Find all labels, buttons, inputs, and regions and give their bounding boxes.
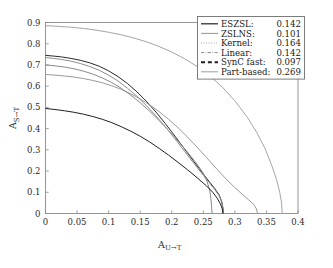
y-tick-label: 0.9 <box>27 18 41 28</box>
legend-value: 0.142 <box>276 48 301 58</box>
x-tick-label: 0.25 <box>194 217 213 227</box>
legend: ESZSL:0.142ZSLNS:0.101Kernel:0.164Linear… <box>198 17 305 80</box>
y-tick-label: 0.8 <box>27 39 41 49</box>
y-tick-label: 0.2 <box>27 166 41 176</box>
legend-value: 0.164 <box>276 38 301 48</box>
legend-label: Kernel: <box>221 38 253 48</box>
curve-zslns <box>46 58 224 214</box>
y-tick-label: 0 <box>35 209 40 219</box>
legend-value: 0.142 <box>276 19 301 29</box>
x-tick-label: 0 <box>43 217 48 227</box>
x-tick-label: 0.4 <box>291 217 305 227</box>
y-tick-label: 0.1 <box>27 187 41 197</box>
legend-value: 0.097 <box>276 57 301 67</box>
legend-label: Linear: <box>221 48 252 58</box>
x-tick-label: 0.35 <box>257 217 276 227</box>
curve-sync-fast <box>46 108 223 213</box>
curve-kernel <box>46 74 258 213</box>
legend-label: SynC fast: <box>221 57 266 67</box>
curve-eszsl <box>46 55 224 213</box>
chart-svg: 00.050.10.150.20.250.30.350.4AU→T00.10.2… <box>0 0 333 268</box>
y-tick-label: 0.6 <box>27 81 41 91</box>
legend-label: ESZSL: <box>221 19 254 29</box>
legend-label: Part-based: <box>221 67 271 77</box>
y-tick-label: 0.3 <box>27 145 41 155</box>
x-tick-label: 0.05 <box>68 217 87 227</box>
chart-figure: 00.050.10.150.20.250.30.350.4AU→T00.10.2… <box>0 0 333 268</box>
curve-linear <box>46 65 213 214</box>
x-tick-label: 0.15 <box>131 217 150 227</box>
y-tick-label: 0.5 <box>27 102 41 112</box>
x-tick-label: 0.2 <box>165 217 179 227</box>
x-axis: 00.050.10.150.20.250.30.350.4AU→T <box>43 210 305 252</box>
x-tick-label: 0.1 <box>102 217 116 227</box>
x-axis-title: AU→T <box>157 239 182 253</box>
y-tick-label: 0.4 <box>27 124 41 134</box>
y-axis: 00.10.20.30.40.50.60.70.80.9AS→T <box>7 18 49 219</box>
y-axis-title: AS→T <box>7 107 21 131</box>
legend-value: 0.101 <box>276 29 301 39</box>
y-tick-label: 0.7 <box>27 60 41 70</box>
legend-value: 0.269 <box>276 67 301 77</box>
legend-label: ZSLNS: <box>221 29 255 39</box>
x-tick-label: 0.3 <box>228 217 242 227</box>
